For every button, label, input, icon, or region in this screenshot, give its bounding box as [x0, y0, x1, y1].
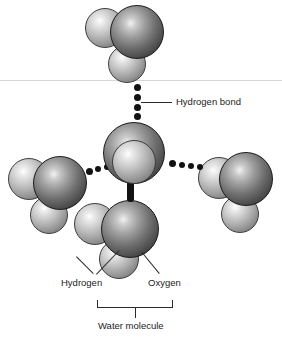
- bond-dot: [134, 94, 141, 101]
- hydrogen-label: Hydrogen: [61, 278, 102, 288]
- oxygen-leader-line: [141, 251, 160, 274]
- bond-dot: [179, 162, 185, 168]
- bond-dot: [134, 104, 141, 111]
- bond-dot: [134, 84, 141, 91]
- bond-dot: [197, 164, 203, 170]
- surface-line: [0, 80, 282, 81]
- oxygen-atom: [110, 5, 164, 59]
- water-hydrogen-bond-diagram: Hydrogen bond Hydrogen Oxygen Water mole…: [0, 0, 282, 348]
- water-molecule-bracket-stem: [135, 308, 136, 318]
- hydrogen-leader-line-a: [76, 256, 94, 274]
- hydrogen-atom: [112, 140, 156, 184]
- bond-dot: [95, 166, 101, 172]
- water-molecule-label: Water molecule: [98, 321, 164, 331]
- oxygen-atom: [101, 200, 159, 258]
- bond-dot: [86, 168, 93, 175]
- hydrogen-bond-label: Hydrogen bond: [176, 97, 241, 107]
- oxygen-label: Oxygen: [148, 278, 181, 288]
- hydrogen-bond-center-bottom: [127, 181, 134, 202]
- bond-dot: [188, 163, 194, 169]
- water-molecule-bracket: [97, 300, 173, 308]
- oxygen-atom: [219, 152, 273, 206]
- oxygen-atom: [33, 156, 87, 210]
- hydrogen-bond-leader-line: [141, 102, 172, 103]
- bond-dot: [134, 113, 141, 120]
- bond-dot: [169, 160, 176, 167]
